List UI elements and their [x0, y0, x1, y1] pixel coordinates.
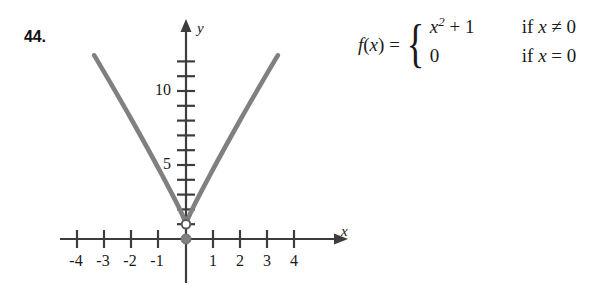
case-expression: x2 + 1 — [430, 14, 522, 38]
function-lhs: f(x) = — [358, 34, 400, 56]
case-cond-if: if — [522, 45, 534, 66]
graph-svg — [0, 0, 360, 288]
case-expression: 0 — [430, 45, 522, 67]
graph-panel: y x 5 10 -4 -3 -2 -1 1 2 3 4 — [0, 0, 360, 288]
x-tick-label-2: 2 — [228, 252, 252, 270]
case-cond-var: x — [538, 45, 546, 66]
piecewise-function: f(x) = { x2 + 1 if x ≠ 0 0 if x = 0 — [358, 14, 576, 76]
x-tick-label-3: 3 — [255, 252, 279, 270]
cases-list: x2 + 1 if x ≠ 0 0 if x = 0 — [430, 14, 577, 76]
x-tick-label-neg4: -4 — [64, 252, 88, 270]
x-tick-label-1: 1 — [201, 252, 225, 270]
figure-root: 44. — [0, 0, 599, 288]
y-tick-label-5: 5 — [141, 155, 171, 173]
equals-sign: = — [389, 34, 400, 55]
x-tick-label-4: 4 — [282, 252, 306, 270]
case-row: 0 if x = 0 — [430, 45, 577, 76]
case-condition: if x ≠ 0 — [522, 16, 576, 38]
function-variable: x — [370, 34, 378, 55]
case-row: x2 + 1 if x ≠ 0 — [430, 14, 577, 45]
x-tick-label-neg3: -3 — [91, 252, 115, 270]
case-expr-base: x — [430, 16, 438, 37]
closed-point-marker — [181, 234, 191, 244]
open-point-marker — [182, 220, 191, 229]
case-cond-var: x — [538, 16, 546, 37]
y-axis-arrow-icon — [181, 19, 192, 32]
x-tick-label-neg1: -1 — [145, 252, 169, 270]
case-expr-rest: + 1 — [445, 16, 475, 37]
y-tick-label-10: 10 — [141, 81, 171, 99]
case-cond-relation: = 0 — [551, 45, 576, 66]
case-condition: if x = 0 — [522, 45, 577, 67]
case-brace: { — [406, 24, 424, 65]
x-tick-label-neg2: -2 — [118, 252, 142, 270]
case-cond-relation: ≠ 0 — [551, 16, 576, 37]
case-expr-base: 0 — [430, 45, 440, 66]
case-cond-if: if — [522, 16, 534, 37]
y-axis-label: y — [197, 20, 204, 37]
paren-close: ) — [378, 34, 384, 55]
x-axis-label: x — [341, 223, 348, 240]
